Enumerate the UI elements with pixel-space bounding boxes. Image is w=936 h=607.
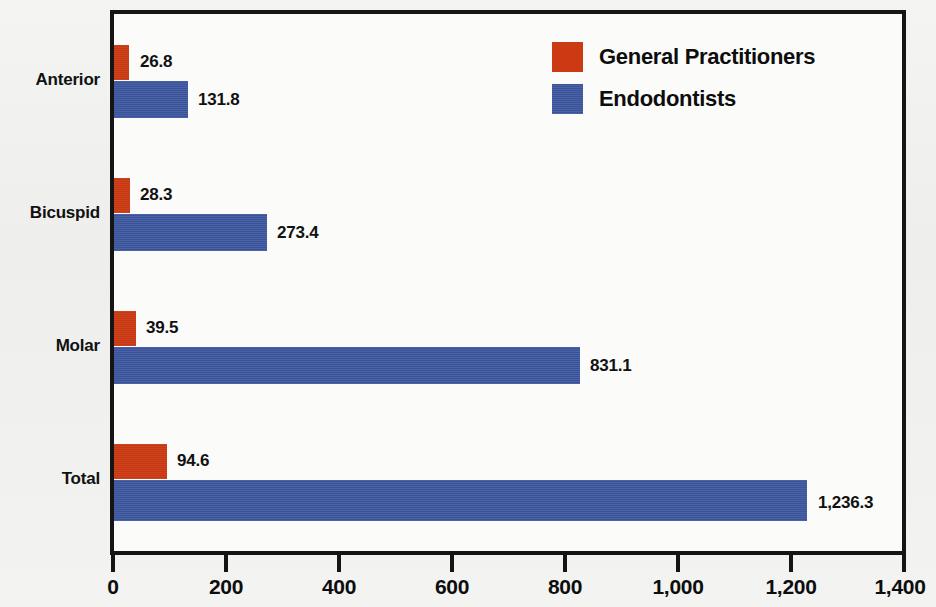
category-label-bicuspid: Bicuspid	[0, 203, 100, 223]
bar-value-gp-anterior: 26.8	[140, 52, 172, 72]
legend-label-endodontists: Endodontists	[599, 86, 736, 112]
bar-gp-total	[114, 444, 167, 479]
category-label-total: Total	[0, 469, 100, 489]
x-tick-label-200: 200	[209, 575, 243, 599]
x-tick-label-1400: 1,400	[874, 575, 925, 599]
bar-value-endo-anterior: 131.8	[198, 90, 240, 110]
x-tick-mark-400	[337, 555, 341, 572]
bar-endo-molar	[114, 347, 580, 384]
bar-endo-bicuspid	[114, 214, 267, 251]
bar-value-gp-molar: 39.5	[146, 318, 178, 338]
x-tick-label-800: 800	[548, 575, 582, 599]
bar-gp-bicuspid	[114, 178, 130, 213]
legend-item-general-practitioners: General Practitioners	[552, 42, 815, 72]
x-tick-label-600: 600	[435, 575, 469, 599]
horizontal-bar-chart: Anterior Bicuspid Molar Total 26.8 131.8…	[0, 0, 936, 607]
x-tick-mark-200	[224, 555, 228, 572]
x-tick-mark-0	[111, 555, 115, 572]
bar-endo-total	[114, 480, 807, 521]
legend-label-general-practitioners: General Practitioners	[599, 44, 815, 70]
x-tick-mark-800	[563, 555, 567, 572]
bar-endo-anterior	[114, 81, 188, 118]
x-tick-label-1200: 1,200	[765, 575, 816, 599]
category-label-molar: Molar	[0, 336, 100, 356]
x-tick-mark-1400	[902, 555, 906, 572]
category-label-anterior: Anterior	[0, 70, 100, 90]
bar-value-gp-total: 94.6	[177, 451, 209, 471]
x-tick-label-1000: 1,000	[652, 575, 703, 599]
bar-value-endo-molar: 831.1	[590, 356, 632, 376]
x-tick-label-400: 400	[322, 575, 356, 599]
chart-legend: General Practitioners Endodontists	[552, 42, 815, 126]
legend-item-endodontists: Endodontists	[552, 84, 815, 114]
x-tick-mark-1200	[789, 555, 793, 572]
x-tick-mark-600	[450, 555, 454, 572]
x-tick-mark-1000	[676, 555, 680, 572]
bar-value-endo-bicuspid: 273.4	[277, 223, 319, 243]
bar-gp-molar	[114, 311, 136, 346]
x-tick-label-0: 0	[107, 575, 118, 599]
bar-gp-anterior	[114, 45, 129, 80]
bar-value-gp-bicuspid: 28.3	[140, 185, 172, 205]
bar-value-endo-total: 1,236.3	[818, 493, 873, 513]
legend-swatch-icon-endodontists	[552, 84, 583, 114]
legend-swatch-icon-general-practitioners	[552, 42, 583, 72]
